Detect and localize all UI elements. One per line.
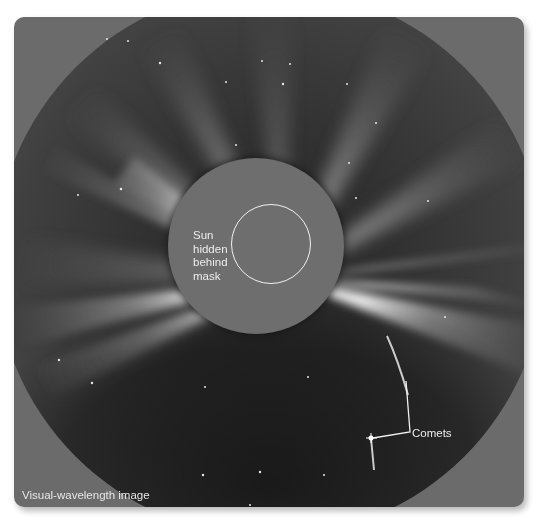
sun-label-line: behind — [193, 256, 243, 270]
sun-label-line: mask — [193, 270, 243, 284]
image-panel: Sun hidden behind mask Comets Visual-wav… — [14, 17, 524, 507]
image-caption: Visual-wavelength image — [22, 489, 150, 501]
sun-label-line: Sun — [193, 229, 243, 243]
sun-outline-circle — [231, 204, 311, 284]
sun-label: Sun hidden behind mask — [193, 229, 243, 283]
comets-label: Comets — [412, 427, 452, 439]
sun-label-line: hidden — [193, 243, 243, 257]
